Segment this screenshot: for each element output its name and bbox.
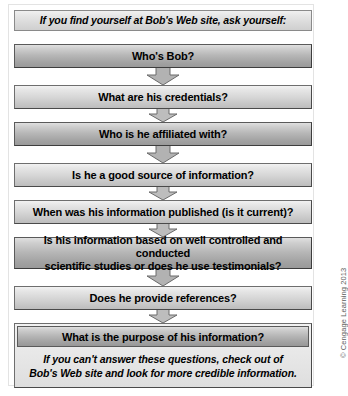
flow-arrow-4 bbox=[14, 187, 312, 200]
flowchart-purpose-bar: What is the purpose of his information? bbox=[17, 326, 309, 347]
flowchart-step-4: Is he a good source of information? bbox=[14, 163, 312, 187]
flowchart-step-4-label: Is he a good source of information? bbox=[72, 169, 254, 182]
flowchart-step-3-label: Who is he affiliated with? bbox=[99, 128, 227, 141]
flowchart-title-text: If you find yourself at Bob's Web site, … bbox=[40, 14, 286, 27]
flowchart-flow: If you find yourself at Bob's Web site, … bbox=[14, 10, 312, 388]
flowchart-step-6-label: Is his information based on well control… bbox=[21, 234, 305, 273]
flow-arrow-2 bbox=[14, 109, 312, 122]
flow-arrow-7 bbox=[14, 310, 312, 323]
flowchart-conclusion-line-2: Bob's Web site and look for more credibl… bbox=[23, 366, 303, 380]
flowchart-step-6-line-2: scientific studies or does he use testim… bbox=[45, 260, 282, 272]
flowchart-step-7: Does he provide references? bbox=[14, 286, 312, 310]
flow-arrow-1 bbox=[14, 68, 312, 85]
copyright-credit: © Cengage Learning 2013 bbox=[339, 238, 348, 358]
flowchart-step-5: When was his information published (is i… bbox=[14, 200, 312, 224]
flowchart-step-1-label: Who's Bob? bbox=[132, 50, 194, 63]
flowchart-step-1: Who's Bob? bbox=[14, 44, 312, 68]
flowchart-purpose-label: What is the purpose of his information? bbox=[62, 331, 264, 343]
flowchart-conclusion-line-1: If you can't answer these questions, che… bbox=[23, 352, 303, 366]
flowchart-step-6-line-1: Is his information based on well control… bbox=[44, 234, 283, 259]
flowchart-step-5-label: When was his information published (is i… bbox=[33, 206, 294, 219]
spacer bbox=[14, 31, 312, 44]
flowchart-step-3: Who is he affiliated with? bbox=[14, 122, 312, 146]
flowchart-conclusion-note: If you can't answer these questions, che… bbox=[15, 347, 311, 387]
flowchart-step-2: What are his credentials? bbox=[14, 85, 312, 109]
flowchart-step-2-label: What are his credentials? bbox=[98, 91, 228, 104]
flow-arrow-3 bbox=[14, 146, 312, 163]
flowchart-step-7-label: Does he provide references? bbox=[90, 292, 237, 305]
flowchart-step-6: Is his information based on well control… bbox=[14, 237, 312, 269]
flowchart-conclusion-block: What is the purpose of his information? … bbox=[14, 323, 312, 388]
flowchart-title-box: If you find yourself at Bob's Web site, … bbox=[14, 10, 312, 31]
